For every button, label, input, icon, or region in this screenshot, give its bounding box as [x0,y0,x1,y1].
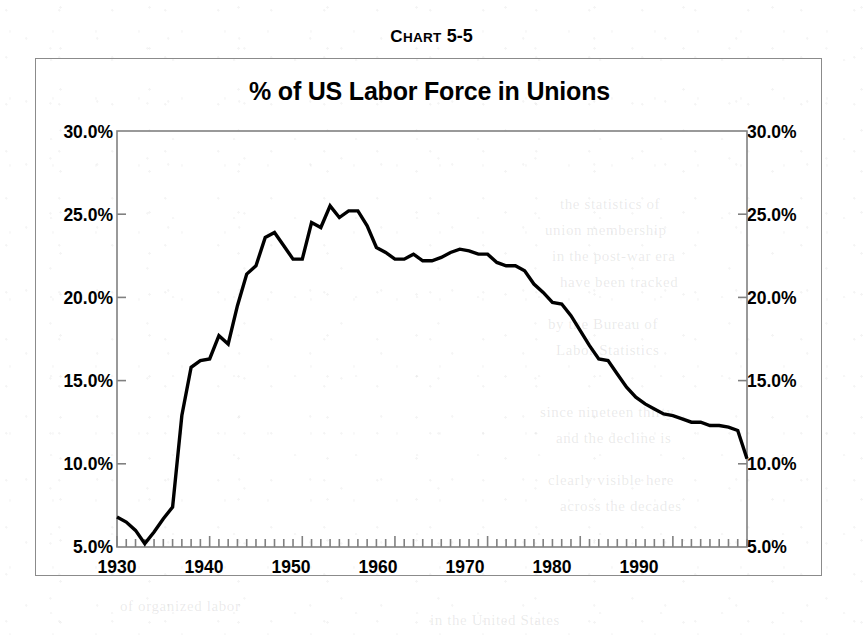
line-chart-plot [36,59,823,577]
chart-caption-prefix-initial: C [390,27,403,46]
chart-caption-prefix-rest: HART [403,30,442,45]
union-membership-data-line [117,206,747,544]
plot-tick-marks [117,214,747,547]
chart-caption: CHART5-5 [0,26,863,47]
chart-frame: % of US Labor Force in Unions 30.0% 25.0… [35,58,822,576]
ghost-text-line: of organized labor [120,598,240,615]
plot-axes [117,131,747,547]
chart-caption-number: 5-5 [447,26,473,46]
ghost-text-line: in the United States [430,612,560,629]
